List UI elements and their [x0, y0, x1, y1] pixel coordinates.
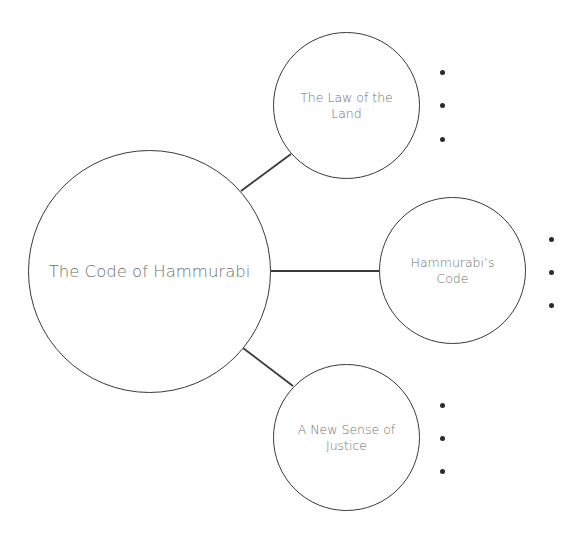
bullet-point	[549, 270, 554, 275]
bullet-point	[440, 137, 445, 142]
branch-node-law-of-the-land: The Law of the Land	[273, 32, 420, 179]
bullet-point	[440, 103, 445, 108]
branch-node-new-sense-of-justice: A New Sense of Justice	[273, 364, 420, 511]
bullet-point	[440, 436, 445, 441]
branch-node-label: A New Sense of Justice	[297, 422, 397, 454]
bullet-point	[440, 70, 445, 75]
branch-node-label: Hammurabi’s Code	[403, 255, 503, 287]
central-node-label: The Code of Hammurabi	[35, 262, 265, 281]
central-node: The Code of Hammurabi	[28, 150, 271, 393]
bullet-point	[549, 237, 554, 242]
branch-node-hammurabis-code: Hammurabi’s Code	[379, 197, 526, 344]
branch-node-label: The Law of the Land	[297, 90, 397, 122]
connector-bottom	[243, 348, 293, 386]
bullet-point	[549, 303, 554, 308]
bullet-point	[440, 403, 445, 408]
connector-top	[241, 154, 291, 191]
bullet-point	[440, 469, 445, 474]
